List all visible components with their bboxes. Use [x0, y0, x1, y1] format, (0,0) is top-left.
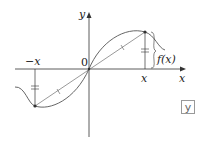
y-badge: y — [181, 100, 195, 114]
brace-icon — [151, 32, 156, 68]
x-axis-label: x — [179, 73, 185, 84]
origin-point — [88, 68, 90, 70]
point-right — [143, 30, 146, 33]
neg-x-label: −x — [25, 56, 40, 67]
pos-x-label: x — [141, 73, 147, 84]
point-left — [33, 104, 36, 107]
y-axis-label: y — [79, 9, 85, 20]
f-x-label: f(x) — [157, 54, 176, 65]
origin-label: 0 — [81, 57, 88, 68]
x-axis-arrow-icon — [180, 67, 186, 72]
y-axis-arrow-icon — [87, 12, 92, 18]
odd-function-diagram — [0, 0, 201, 147]
